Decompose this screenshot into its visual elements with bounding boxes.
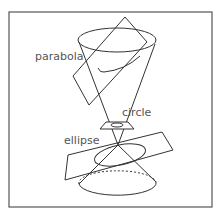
- lower-cone-base-front: [79, 182, 156, 195]
- parabola-curve: [98, 56, 140, 72]
- upper-cone-rim: [78, 28, 156, 52]
- parabola-plane: [73, 17, 147, 105]
- ellipse-label: ellipse: [64, 135, 99, 146]
- circle-label: circle: [122, 107, 151, 118]
- conic-sections-diagram: [0, 0, 219, 213]
- upper-cone-left-edge: [79, 42, 118, 145]
- frame-border: [9, 12, 212, 207]
- parabola-label: parabola: [35, 51, 84, 62]
